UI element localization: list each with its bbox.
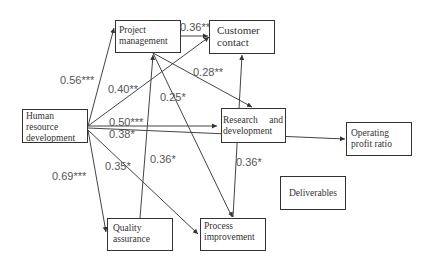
edge-label-pm-pi: 0.25* [160,91,186,103]
edge-label-pm-cc: 0.36** [180,21,210,33]
node-process-improvement: Process improvement [200,218,266,251]
edge-label-hrd-pm: 0.56*** [60,74,94,86]
node-deliverables: Deliverables [280,176,346,210]
edge-label-hrd-pi: 0.35* [105,160,131,172]
node-label-line: profit ratio [351,139,408,150]
edge-label-hrd-cc: 0.40** [108,83,138,95]
node-label-line: development [26,133,84,144]
edge-label-pi-cc: 0.36* [236,156,262,168]
node-label-line: Project [119,25,177,36]
edge-label-pm-rd: 0.28** [193,66,223,78]
node-label-line: development [223,126,283,137]
edge-label-hrd-rd: 0.50*** [109,116,143,128]
node-label-line: contact [217,36,271,48]
node-label-line: Process [204,221,262,232]
node-label-line: management [119,36,177,47]
node-label-line: Deliverables [289,188,337,199]
edge-label-hrd-qa: 0.69*** [52,170,86,182]
node-label-line: Customer [217,24,271,36]
node-label-line: Human [26,111,84,122]
edge-label-qa-pm: 0.36* [150,153,176,165]
node-research-and-development: Research and development [221,108,286,143]
node-operating-profit-ratio: Operating profit ratio [346,122,412,156]
edge-qa-pm [140,55,153,218]
node-project-management: Project management [115,20,181,53]
node-label-line: Quality [113,223,169,234]
node-label-line: Research and [223,115,283,126]
node-label-line: Operating [351,128,408,139]
edge-hrd-qa [88,130,106,232]
node-label-line: assurance [113,234,169,245]
node-customer-contact: Customer contact [209,20,275,54]
node-quality-assurance: Quality assurance [107,218,173,251]
node-label-line: resource [26,122,84,133]
edge-label-hrd-opr: 0.38* [109,128,135,140]
node-human-resource-development: Human resource development [22,109,88,143]
node-label-line: improvement [204,232,262,243]
